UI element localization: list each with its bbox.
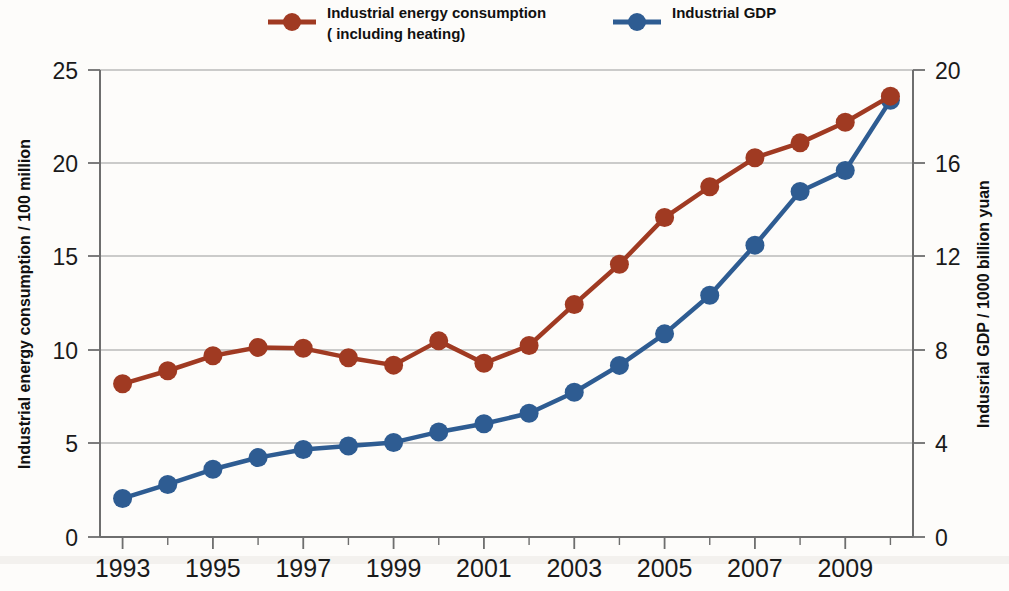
data-point-2005[interactable] bbox=[655, 324, 674, 343]
right-ticklabel-0: 0 bbox=[935, 525, 948, 551]
data-point-2009[interactable] bbox=[836, 161, 855, 180]
data-point-1995[interactable] bbox=[203, 346, 222, 365]
chart-figure: Industrial energy consumption ( includin… bbox=[0, 0, 1009, 591]
data-point-2003[interactable] bbox=[565, 383, 584, 402]
data-point-1993[interactable] bbox=[113, 489, 132, 508]
right-ticklabel-16: 16 bbox=[935, 151, 961, 177]
data-point-2007[interactable] bbox=[745, 148, 764, 167]
data-point-1998[interactable] bbox=[339, 436, 358, 455]
data-point-1993[interactable] bbox=[113, 374, 132, 393]
legend-label-energy-line1: Industrial energy consumption bbox=[327, 4, 546, 21]
data-point-1997[interactable] bbox=[294, 440, 313, 459]
data-point-1995[interactable] bbox=[203, 460, 222, 479]
data-point-2008[interactable] bbox=[791, 133, 810, 152]
x-axis-tick-labels: 199319951997199920012003200520072009 bbox=[95, 554, 873, 582]
left-ticklabel-20: 20 bbox=[52, 151, 78, 177]
left-ticklabel-25: 25 bbox=[52, 58, 78, 84]
right-ticklabel-20: 20 bbox=[935, 58, 961, 84]
dual-axis-line-chart: Industrial energy consumption ( includin… bbox=[0, 0, 1009, 591]
data-point-1994[interactable] bbox=[158, 475, 177, 494]
data-point-2007[interactable] bbox=[745, 236, 764, 255]
x-ticklabel-1999: 1999 bbox=[366, 554, 422, 582]
data-point-2010[interactable] bbox=[881, 87, 900, 106]
data-point-1994[interactable] bbox=[158, 361, 177, 380]
data-point-2004[interactable] bbox=[610, 356, 629, 375]
data-point-2002[interactable] bbox=[520, 404, 539, 423]
x-ticklabel-2009: 2009 bbox=[817, 554, 873, 582]
left-axis-title: Industrial energy consumption / 100 mill… bbox=[16, 139, 33, 469]
legend-marker-gdp bbox=[628, 13, 646, 31]
data-point-2008[interactable] bbox=[791, 182, 810, 201]
left-ticklabel-0: 0 bbox=[65, 525, 78, 551]
chart-background bbox=[0, 0, 1009, 591]
right-ticklabel-8: 8 bbox=[935, 338, 948, 364]
data-point-2001[interactable] bbox=[474, 414, 493, 433]
data-point-1999[interactable] bbox=[384, 356, 403, 375]
data-point-2005[interactable] bbox=[655, 208, 674, 227]
data-point-1998[interactable] bbox=[339, 348, 358, 367]
data-point-2001[interactable] bbox=[474, 354, 493, 373]
left-ticklabel-5: 5 bbox=[65, 431, 78, 457]
legend-label-energy-line2: ( including heating) bbox=[327, 25, 465, 42]
x-ticklabel-2005: 2005 bbox=[637, 554, 693, 582]
legend-marker-energy bbox=[283, 13, 301, 31]
data-point-2000[interactable] bbox=[429, 422, 448, 441]
x-ticklabel-1997: 1997 bbox=[275, 554, 331, 582]
data-point-2004[interactable] bbox=[610, 255, 629, 274]
x-ticklabel-1995: 1995 bbox=[185, 554, 241, 582]
x-ticklabel-2003: 2003 bbox=[546, 554, 602, 582]
right-axis-title: Indusrial GDP / 1000 billion yuan bbox=[975, 180, 992, 428]
x-ticklabel-1993: 1993 bbox=[95, 554, 151, 582]
data-point-1997[interactable] bbox=[294, 339, 313, 358]
data-point-1996[interactable] bbox=[249, 338, 268, 357]
legend-label-gdp: Industrial GDP bbox=[672, 4, 776, 21]
right-ticklabel-12: 12 bbox=[935, 244, 961, 270]
left-ticklabel-15: 15 bbox=[52, 244, 78, 270]
data-point-2003[interactable] bbox=[565, 295, 584, 314]
left-ticklabel-10: 10 bbox=[52, 338, 78, 364]
x-ticklabel-2007: 2007 bbox=[727, 554, 783, 582]
x-ticklabel-2001: 2001 bbox=[456, 554, 512, 582]
data-point-2000[interactable] bbox=[429, 331, 448, 350]
data-point-2002[interactable] bbox=[520, 336, 539, 355]
data-point-2009[interactable] bbox=[836, 113, 855, 132]
right-ticklabel-4: 4 bbox=[935, 431, 948, 457]
data-point-1999[interactable] bbox=[384, 433, 403, 452]
data-point-2006[interactable] bbox=[700, 177, 719, 196]
data-point-2006[interactable] bbox=[700, 286, 719, 305]
data-point-1996[interactable] bbox=[249, 448, 268, 467]
